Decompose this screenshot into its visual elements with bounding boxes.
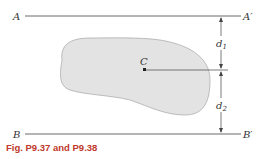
label-b-prime: B′	[242, 129, 253, 140]
area-shape	[60, 38, 210, 115]
arrow-down-icon	[219, 64, 223, 69]
arrow-up-icon	[219, 17, 223, 22]
arrow-up-icon	[219, 71, 223, 76]
label-c: C	[140, 56, 148, 67]
label-b: B	[12, 129, 20, 140]
centroid-point	[143, 68, 146, 71]
label-a: A	[12, 11, 20, 22]
arrow-down-icon	[219, 128, 223, 133]
figure-diagram: A A′ B B′ C d1 d2	[0, 0, 266, 159]
label-a-prime: A′	[242, 11, 253, 22]
figure-caption: Fig. P9.37 and P9.38	[6, 142, 97, 153]
